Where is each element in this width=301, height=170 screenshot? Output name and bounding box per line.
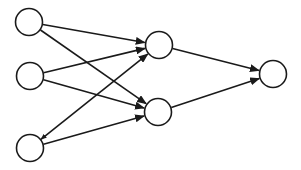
hidden-node-h2 [145, 99, 172, 126]
nodes-layer [16, 9, 287, 162]
edge-in1-to-h1 [43, 24, 145, 42]
hidden-node-h1 [146, 32, 173, 59]
edge-in2-to-h2 [43, 80, 144, 108]
input-node-in2 [17, 63, 44, 90]
neural-network-diagram [0, 0, 301, 170]
edge-in1-to-h2 [40, 30, 146, 104]
input-node-in1 [16, 9, 43, 36]
output-node-out [260, 61, 287, 88]
edge-h2-to-out [171, 79, 259, 108]
edge-in3-to-h2 [43, 116, 144, 144]
edge-h1-to-out [173, 48, 259, 70]
diagram-canvas [0, 0, 301, 170]
input-node-in3 [17, 135, 44, 162]
